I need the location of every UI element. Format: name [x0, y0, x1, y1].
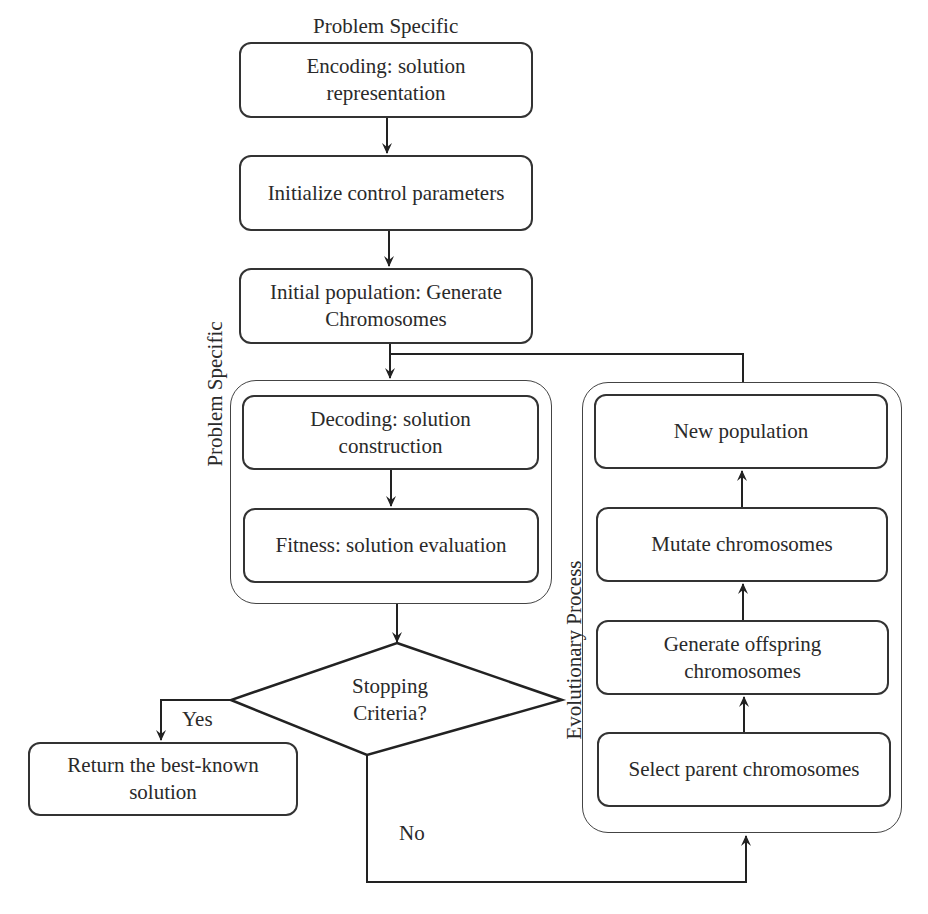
initial-population-line2: Chromosomes: [325, 306, 446, 333]
generate-offspring-node: Generate offspring chromosomes: [596, 620, 889, 695]
encoding-line2: representation: [327, 80, 446, 107]
fitness-node: Fitness: solution evaluation: [243, 508, 539, 583]
initial-population-node: Initial population: Generate Chromosomes: [239, 268, 533, 344]
generate-offspring-line1: Generate offspring: [664, 631, 822, 658]
initialize-label: Initialize control parameters: [268, 180, 505, 207]
mutate-node: Mutate chromosomes: [596, 507, 888, 582]
loop-back-line: [391, 354, 743, 382]
return-line1: Return the best-known: [67, 752, 258, 779]
fitness-label: Fitness: solution evaluation: [276, 532, 507, 559]
evolutionary-process-side-label: Evolutionary Process: [562, 552, 586, 748]
decision-label: Stopping Criteria?: [330, 673, 450, 727]
decoding-line2: construction: [339, 433, 443, 460]
decision-line1: Stopping: [330, 673, 450, 700]
decoding-line1: Decoding: solution: [310, 406, 470, 433]
new-population-label: New population: [674, 418, 809, 445]
decision-line2: Criteria?: [330, 700, 450, 727]
yes-edge-label: Yes: [182, 707, 213, 732]
encoding-line1: Encoding: solution: [306, 53, 465, 80]
generate-offspring-line2: chromosomes: [684, 658, 801, 685]
initialize-node: Initialize control parameters: [239, 155, 533, 231]
return-best-node: Return the best-known solution: [28, 742, 298, 816]
no-edge-label: No: [399, 821, 425, 846]
initial-population-line1: Initial population: Generate: [270, 279, 502, 306]
return-line2: solution: [129, 779, 197, 806]
problem-specific-side-label: Problem Specific: [203, 314, 227, 474]
encoding-node: Encoding: solution representation: [239, 42, 533, 118]
new-population-node: New population: [594, 394, 888, 469]
select-parents-node: Select parent chromosomes: [597, 732, 891, 807]
select-parents-label: Select parent chromosomes: [629, 756, 860, 783]
mutate-label: Mutate chromosomes: [651, 531, 832, 558]
decoding-node: Decoding: solution construction: [242, 395, 539, 470]
problem-specific-top-label: Problem Specific: [313, 14, 458, 39]
